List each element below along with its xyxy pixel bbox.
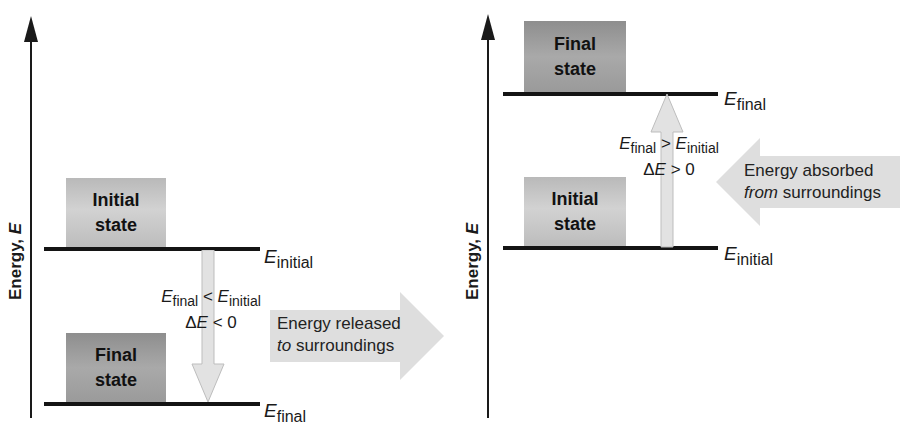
left-final-state-box: Final state <box>66 333 166 403</box>
right-final-level-line <box>503 92 718 96</box>
right-energy-axis <box>487 36 489 418</box>
left-energy-relation: Efinal < Einitial ΔE < 0 <box>146 286 276 334</box>
right-final-level-label: Efinal <box>724 88 766 114</box>
left-initial-level-line <box>44 247 260 251</box>
right-axis-label: Energy, E <box>463 223 483 300</box>
right-final-state-box: Final state <box>524 21 626 92</box>
left-initial-state-box: Initial state <box>66 178 166 248</box>
right-initial-level-label: Einitial <box>724 243 773 269</box>
left-energy-axis <box>30 38 32 418</box>
energy-absorbed-label: Energy absorbed from surroundings <box>744 160 881 204</box>
right-initial-level-line <box>503 246 718 250</box>
left-initial-level-label: Einitial <box>264 246 313 272</box>
right-delta-e: ΔE > 0 <box>604 159 734 181</box>
energy-released-label: Energy released to surroundings <box>277 313 401 357</box>
left-final-level-label: Efinal <box>264 400 306 426</box>
left-inequality: Efinal < Einitial <box>146 286 276 312</box>
left-final-level-line <box>44 402 260 406</box>
right-initial-state-box: Initial state <box>524 177 626 247</box>
right-inequality: Efinal > Einitial <box>604 133 734 159</box>
left-delta-e: ΔE < 0 <box>146 312 276 334</box>
left-axis-label: Energy, E <box>6 223 26 300</box>
right-energy-relation: Efinal > Einitial ΔE > 0 <box>604 133 734 181</box>
